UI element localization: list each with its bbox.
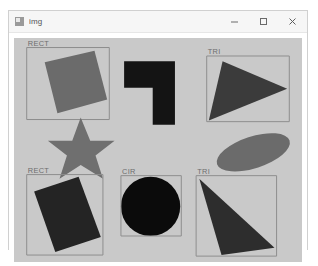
- rect-bottom-left-fill: [34, 177, 101, 252]
- minimize-button[interactable]: [220, 11, 249, 32]
- title-bar-left: img: [9, 17, 220, 26]
- triangle-bottom-right-label: TRI: [197, 167, 210, 176]
- image-app-icon: [15, 17, 24, 26]
- star-middle-left-fill: [48, 117, 115, 178]
- title-bar[interactable]: img: [9, 11, 307, 33]
- ellipse-middle-right-fill: [212, 125, 294, 179]
- rect-bottom-left-label: RECT: [28, 166, 50, 175]
- close-button[interactable]: [278, 11, 307, 32]
- triangle-top-right-fill: [209, 61, 287, 120]
- triangle-bottom-right-fill: [199, 179, 274, 255]
- rect-top-left-label: RECT: [28, 39, 50, 48]
- shape-rect-top-left: RECT: [27, 39, 110, 120]
- rect-top-left-fill: [45, 51, 107, 113]
- shape-rect-bottom-left: RECT: [27, 166, 103, 255]
- shape-polygon-top-center: [124, 61, 175, 125]
- shape-triangle-top-right: TRI: [207, 47, 290, 121]
- shape-circle-bottom-center: CIR: [121, 167, 181, 236]
- shape-layer: RECTTRIRECTCIRTRI: [14, 38, 302, 262]
- image-viewport: RECTTRIRECTCIRTRI: [9, 33, 307, 266]
- image-canvas[interactable]: RECTTRIRECTCIRTRI: [14, 38, 302, 262]
- app-window: img RECTTRIRECTCIRTRI: [8, 10, 308, 250]
- polygon-top-center-fill: [124, 61, 175, 125]
- window-controls: [220, 11, 307, 32]
- triangle-top-right-label: TRI: [208, 47, 221, 56]
- maximize-button[interactable]: [249, 11, 278, 32]
- circle-bottom-center-fill: [121, 177, 180, 236]
- window-title: img: [29, 17, 43, 26]
- shape-triangle-bottom-right: TRI: [196, 167, 276, 256]
- circle-bottom-center-label: CIR: [122, 167, 136, 176]
- shape-ellipse-middle-right: [212, 125, 294, 179]
- shape-star-middle-left: [48, 117, 115, 178]
